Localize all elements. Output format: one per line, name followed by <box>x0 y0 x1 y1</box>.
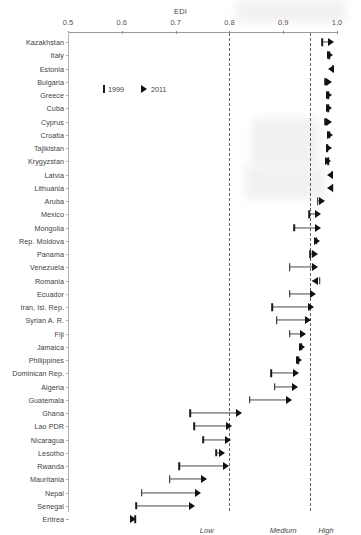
marker-2011 <box>327 131 333 139</box>
country-label: Mexico <box>0 210 64 219</box>
change-connector <box>277 320 305 321</box>
country-label: Cuba <box>0 104 64 113</box>
marker-1999 <box>289 264 291 272</box>
marker-2011 <box>299 343 305 351</box>
zone-label: Low <box>200 526 214 535</box>
x-tick-label: 0.7 <box>170 18 180 27</box>
axis-title-edi: EDI <box>0 7 361 16</box>
marker-2011 <box>326 78 332 86</box>
row-tick <box>66 69 69 70</box>
marker-2011 <box>319 197 325 205</box>
country-label: Lesotho <box>0 448 64 457</box>
marker-1999 <box>202 436 204 444</box>
row-tick <box>66 307 69 308</box>
marker-2011 <box>327 51 333 59</box>
country-label: Philippines <box>0 356 64 365</box>
row-tick <box>66 519 69 520</box>
country-label: Greece <box>0 91 64 100</box>
marker-2011 <box>296 356 302 364</box>
marker-1999 <box>321 38 323 46</box>
country-label: Eritrea <box>0 515 64 524</box>
country-label: Romania <box>0 276 64 285</box>
change-connector <box>275 386 292 387</box>
marker-2011 <box>312 263 318 271</box>
country-label: Nicaragua <box>0 435 64 444</box>
marker-1999 <box>179 462 181 470</box>
marker-1999 <box>189 409 191 417</box>
x-tick-label: 0.5 <box>63 18 73 27</box>
marker-2011 <box>226 422 232 430</box>
marker-1999 <box>309 250 311 258</box>
country-label: Croatia <box>0 130 64 139</box>
change-connector <box>190 412 236 413</box>
row-tick <box>66 228 69 229</box>
marker-2011 <box>292 383 298 391</box>
change-connector <box>203 439 224 440</box>
marker-1999 <box>194 423 196 431</box>
country-label: Dominican Rep. <box>0 369 64 378</box>
x-tick-label: 0.6 <box>117 18 127 27</box>
row-tick <box>66 373 69 374</box>
change-connector <box>179 465 223 466</box>
row-tick <box>66 479 69 480</box>
marker-2011 <box>327 184 333 192</box>
x-tick-label: 0.9 <box>278 18 288 27</box>
row-tick <box>66 122 69 123</box>
change-connector <box>290 267 312 268</box>
change-connector <box>136 505 189 506</box>
country-label: Mongolia <box>0 223 64 232</box>
change-connector <box>272 306 307 307</box>
country-label: Latvia <box>0 170 64 179</box>
row-tick <box>66 267 69 268</box>
country-label: Rep. Moldova <box>0 236 64 245</box>
marker-2011 <box>310 290 316 298</box>
x-tick-label: 0.8 <box>224 18 234 27</box>
country-label: Lao PDR <box>0 422 64 431</box>
row-tick <box>66 334 69 335</box>
scan-smudge <box>252 118 318 166</box>
row-tick <box>66 175 69 176</box>
row-tick <box>66 426 69 427</box>
country-label: Estonia <box>0 64 64 73</box>
marker-1999 <box>308 211 310 219</box>
marker-2011 <box>305 316 311 324</box>
scan-smudge <box>245 165 325 199</box>
country-label: Aruba <box>0 197 64 206</box>
marker-1999 <box>216 449 218 457</box>
marker-1999 <box>294 224 296 232</box>
marker-1999 <box>272 303 274 311</box>
legend: 1999 2011 <box>103 84 193 96</box>
row-tick <box>66 466 69 467</box>
row-tick <box>66 55 69 56</box>
row-tick <box>66 148 69 149</box>
marker-1999 <box>289 330 291 338</box>
country-label: Syrian A. R. <box>0 316 64 325</box>
zone-label: High <box>318 526 333 535</box>
marker-2011 <box>314 237 320 245</box>
legend-label-2011: 2011 <box>151 85 166 94</box>
row-tick <box>66 453 69 454</box>
marker-1999 <box>271 370 273 378</box>
country-label: Italy <box>0 51 64 60</box>
marker-1999 <box>169 476 171 484</box>
threshold-line <box>310 33 311 511</box>
row-tick <box>66 360 69 361</box>
country-label: Fiji <box>0 329 64 338</box>
country-label: Nepal <box>0 488 64 497</box>
marker-2011 <box>326 104 332 112</box>
marker-2011 <box>327 171 333 179</box>
legend-marker-1999 <box>103 85 105 93</box>
marker-2011 <box>326 118 332 126</box>
row-tick <box>66 347 69 348</box>
marker-1999 <box>276 317 278 325</box>
change-connector <box>294 227 314 228</box>
marker-2011 <box>225 436 231 444</box>
marker-1999 <box>289 290 291 298</box>
country-label: Cyprus <box>0 117 64 126</box>
legend-marker-2011 <box>141 85 147 93</box>
marker-2011 <box>325 157 331 165</box>
row-tick <box>66 214 69 215</box>
country-label: Krygyzstan <box>0 157 64 166</box>
row-tick <box>66 161 69 162</box>
marker-2011 <box>300 330 306 338</box>
